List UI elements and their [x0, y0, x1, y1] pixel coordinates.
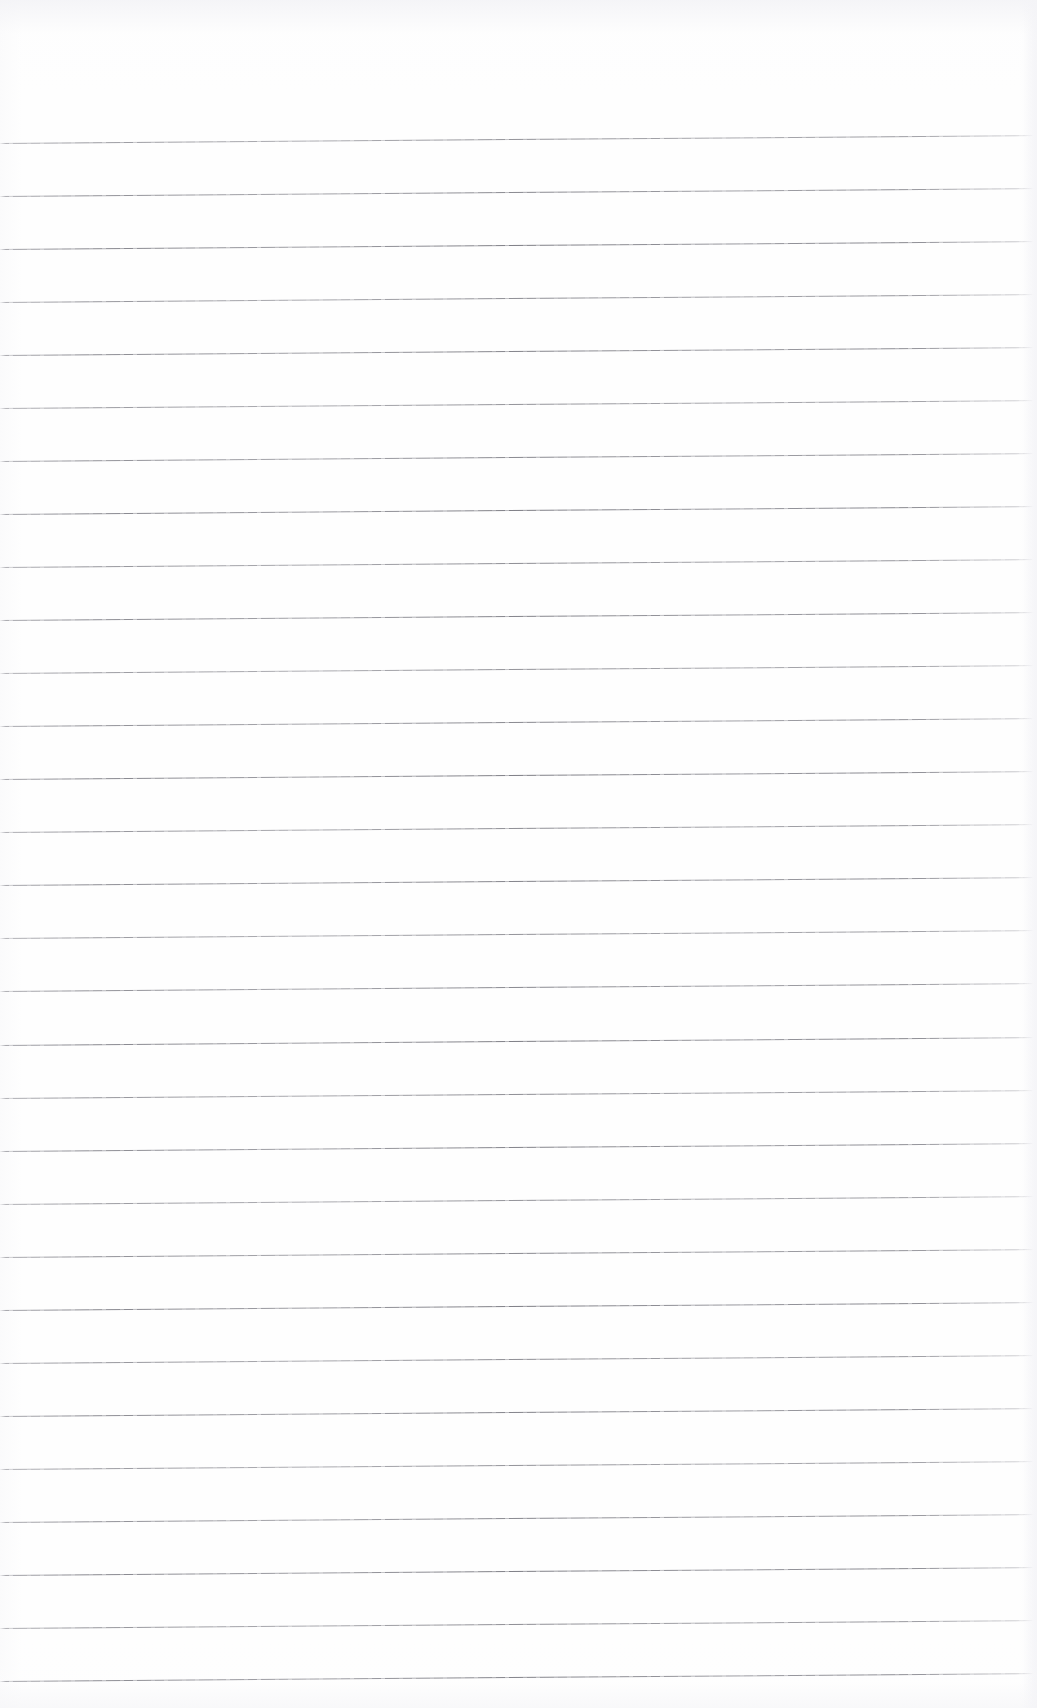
- ruled-line: [0, 877, 1034, 886]
- ruled-line: [0, 612, 1034, 621]
- ruled-line: [0, 188, 1034, 197]
- ruled-line: [0, 1514, 1034, 1523]
- ruled-line: [0, 1196, 1034, 1205]
- ruled-line: [0, 1302, 1034, 1311]
- ruled-line: [0, 930, 1034, 939]
- ruled-line: [0, 1249, 1034, 1258]
- ruled-line: [0, 506, 1034, 515]
- ruled-line: [0, 665, 1034, 674]
- ruled-line: [0, 294, 1034, 303]
- ruled-line: [0, 135, 1034, 144]
- ruled-line: [0, 241, 1034, 250]
- ruled-line: [0, 1461, 1034, 1470]
- ruled-lines-layer: [0, 0, 1037, 1708]
- ruled-line: [0, 559, 1034, 568]
- ruled-line: [0, 1673, 1034, 1682]
- ruled-line: [0, 1143, 1034, 1152]
- ruled-line: [0, 1620, 1034, 1629]
- ruled-line: [0, 1355, 1034, 1364]
- ruled-line: [0, 453, 1034, 462]
- ruled-line: [0, 984, 1034, 993]
- ruled-line: [0, 347, 1034, 356]
- ruled-line: [0, 718, 1034, 727]
- ruled-line: [0, 400, 1034, 409]
- ruled-line: [0, 1037, 1034, 1046]
- ruled-line: [0, 824, 1034, 833]
- ruled-line: [0, 1408, 1034, 1417]
- ruled-line: [0, 771, 1034, 780]
- ruled-line: [0, 1567, 1034, 1576]
- ruled-line: [0, 1090, 1034, 1099]
- scanned-notebook-page: Blank scanned notebook page with horizon…: [0, 0, 1037, 1708]
